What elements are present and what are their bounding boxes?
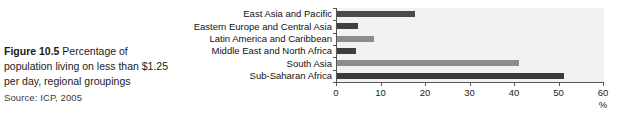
bar: [337, 48, 356, 54]
value-tick: [603, 82, 604, 86]
caption-line-3: per day, regional groupings: [4, 74, 184, 89]
category-label: Eastern Europe and Central Asia: [196, 20, 336, 32]
value-tick-label: 20: [420, 87, 431, 98]
bar-row: [337, 33, 604, 45]
bar-row: [337, 70, 604, 82]
category-tick: [333, 70, 337, 71]
bar: [337, 73, 564, 79]
value-tick-label: 40: [509, 87, 520, 98]
category-tick: [333, 33, 337, 34]
value-tick-label: 10: [375, 87, 386, 98]
category-axis-labels: East Asia and PacificEastern Europe and …: [196, 8, 336, 82]
value-tick: [470, 82, 471, 86]
value-tick-label: 30: [464, 87, 475, 98]
caption-line-1: Figure 10.5 Percentage of: [4, 44, 184, 59]
category-tick: [333, 8, 337, 9]
figure-container: Figure 10.5 Percentage of population liv…: [0, 0, 638, 122]
figure-caption: Figure 10.5 Percentage of population liv…: [4, 44, 184, 105]
bar: [337, 11, 415, 17]
value-tick: [425, 82, 426, 86]
bar-row: [337, 8, 604, 20]
value-tick: [559, 82, 560, 86]
bar: [337, 60, 519, 66]
bar-series: [337, 8, 604, 82]
caption-line-1-rest: Percentage of: [59, 45, 127, 57]
value-axis-tick-labels: 0102030405060: [336, 87, 603, 101]
plot-area: [336, 8, 604, 82]
value-tick: [381, 82, 382, 86]
category-tick: [333, 20, 337, 21]
category-label: Latin America and Caribbean: [196, 33, 336, 45]
value-tick-label: 0: [333, 87, 338, 98]
category-tick: [333, 45, 337, 46]
category-label: South Asia: [196, 57, 336, 69]
bar-chart: East Asia and PacificEastern Europe and …: [196, 2, 634, 120]
bar-row: [337, 57, 604, 69]
value-tick-label: 60: [598, 87, 609, 98]
bar: [337, 23, 358, 29]
bar-row: [337, 45, 604, 57]
category-label: Middle East and North Africa: [196, 45, 336, 57]
figure-number: Figure 10.5: [4, 45, 59, 57]
bar-row: [337, 20, 604, 32]
category-label: Sub-Saharan Africa: [196, 70, 336, 82]
bar: [337, 36, 374, 42]
value-axis-unit-label: %: [599, 99, 607, 110]
value-tick: [514, 82, 515, 86]
category-tick: [333, 57, 337, 58]
value-tick-label: 50: [553, 87, 564, 98]
category-label: East Asia and Pacific: [196, 8, 336, 20]
caption-source: Source: ICP, 2005: [4, 90, 184, 105]
caption-line-2: population living on less than $1.25: [4, 59, 184, 74]
value-tick: [336, 82, 337, 86]
